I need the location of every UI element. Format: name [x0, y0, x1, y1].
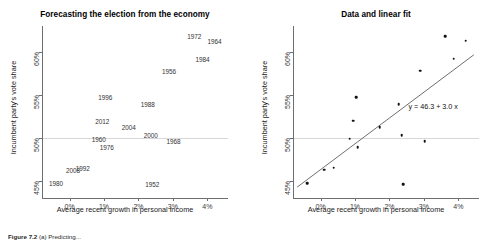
y-tick-label-text: 55%	[283, 95, 293, 109]
caption-figure-number: Figure 7.2	[8, 233, 37, 240]
year-label-point: 1964	[208, 37, 222, 44]
y-axis-title-right: Incumbent party's vote share	[260, 53, 269, 163]
panel-forecasting: Forecasting the election from the econom…	[0, 0, 250, 228]
figure-caption: Figure 7.2 (a) Predicting...	[8, 233, 498, 240]
year-label-point: 2008	[66, 166, 80, 173]
year-label-point: 1968	[167, 138, 181, 145]
y-tick-label-text: 60%	[283, 52, 293, 66]
data-point	[349, 137, 352, 140]
caption-body: (a) Predicting...	[37, 233, 81, 240]
y-tick-label-text: 45%	[283, 181, 293, 195]
y-tick-label-text: 50%	[32, 138, 42, 152]
x-axis-title-left: Average recent growth in personal income	[0, 205, 250, 214]
data-point	[401, 134, 404, 137]
x-tick-mark	[138, 198, 139, 201]
data-point	[419, 69, 422, 72]
year-label-point: 1972	[187, 33, 201, 40]
data-point	[356, 146, 359, 149]
x-tick-mark	[173, 198, 174, 201]
y-tick-label-text: 55%	[32, 95, 42, 109]
figure-container: Forecasting the election from the econom…	[0, 0, 501, 242]
data-point	[355, 96, 358, 99]
year-label-point: 2012	[95, 117, 109, 124]
year-label-point: 2000	[144, 132, 158, 139]
x-tick-mark	[70, 198, 71, 201]
data-point	[306, 182, 309, 185]
x-tick-mark	[458, 198, 459, 201]
x-tick-mark	[355, 198, 356, 201]
data-point	[332, 167, 335, 170]
x-tick-mark	[389, 198, 390, 201]
data-point	[452, 57, 455, 60]
data-point	[379, 126, 382, 129]
year-label-point: 1984	[195, 55, 209, 62]
y-tick-label-text: 45%	[32, 181, 42, 195]
data-point	[423, 140, 426, 143]
fit-equation-label: y = 46.3 + 3.0 x	[408, 102, 458, 111]
x-tick-mark	[424, 198, 425, 201]
x-tick-mark	[321, 198, 322, 201]
x-tick-mark	[207, 198, 208, 201]
year-label-point: 1976	[100, 144, 114, 151]
data-point	[323, 168, 326, 171]
year-label-point: 1960	[92, 135, 106, 142]
x-tick-mark	[104, 198, 105, 201]
plot-area-right: 45%50%55%60%0%1%2%3%4%	[293, 26, 479, 198]
data-point	[402, 183, 405, 186]
data-point	[444, 35, 447, 38]
year-label-point: 1952	[145, 181, 159, 188]
year-label-point: 1956	[162, 67, 176, 74]
y-tick-label-text: 60%	[32, 52, 42, 66]
panel-title-left: Forecasting the election from the econom…	[0, 10, 250, 19]
data-point	[464, 39, 467, 42]
year-label-point: 1996	[98, 94, 112, 101]
x-axis-title-right: Average recent growth in personal income	[251, 205, 501, 214]
panel-title-right: Data and linear fit	[251, 10, 501, 19]
y-axis-title-left: Incumbent party's vote share	[9, 53, 18, 163]
y-axis-line-left	[42, 26, 43, 198]
data-point	[397, 103, 400, 106]
year-label-point: 2004	[122, 124, 136, 131]
data-point	[352, 119, 355, 122]
regression-line	[293, 26, 479, 198]
year-label-point: 1980	[49, 180, 63, 187]
plot-area-left: 45%50%55%60%0%1%2%3%4%195219561960196419…	[42, 26, 228, 198]
panel-linear-fit: Data and linear fit 45%50%55%60%0%1%2%3%…	[251, 0, 501, 228]
y-tick-label-text: 50%	[283, 138, 293, 152]
year-label-point: 1988	[141, 101, 155, 108]
gridline-50-percent-left	[43, 138, 228, 139]
